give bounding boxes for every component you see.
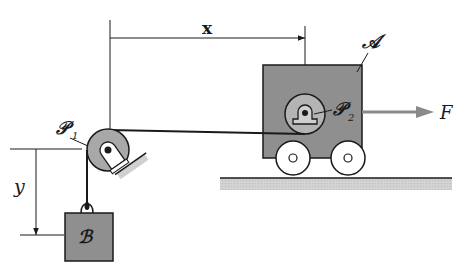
force-arrow: F — [362, 102, 454, 123]
block-b: ℬ — [65, 202, 113, 261]
svg-text:ℬ: ℬ — [78, 226, 94, 247]
svg-text:1: 1 — [72, 130, 78, 141]
force-label: F — [439, 102, 454, 123]
y-label: y — [13, 175, 25, 197]
svg-text:2: 2 — [347, 112, 354, 123]
diagram-canvas: x 𝒜 𝒫 2 F — [0, 0, 472, 272]
ground — [220, 178, 452, 190]
svg-text:𝒜: 𝒜 — [361, 30, 387, 52]
x-label: x — [202, 18, 213, 38]
